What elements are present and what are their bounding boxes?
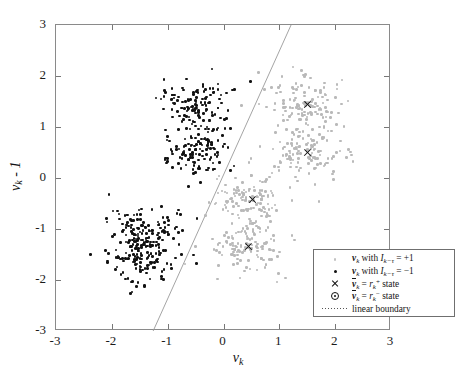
scatter-point — [305, 143, 308, 146]
scatter-point — [181, 229, 184, 232]
scatter-point — [347, 100, 350, 103]
scatter-point — [310, 154, 313, 157]
scatter-point — [326, 139, 329, 142]
scatter-point — [133, 214, 136, 217]
scatter-point — [277, 124, 280, 127]
scatter-point — [241, 196, 244, 199]
scatter-point — [197, 133, 200, 136]
scatter-point — [198, 153, 201, 156]
scatter-point — [218, 161, 221, 164]
scatter-point — [241, 181, 244, 184]
scatter-point — [192, 120, 195, 123]
scatter-point — [308, 86, 311, 89]
scatter-point — [326, 162, 329, 165]
scatter-point — [140, 254, 143, 257]
scatter-point — [308, 104, 311, 107]
scatter-point — [156, 258, 159, 261]
scatter-point — [139, 266, 142, 269]
scatter-point — [164, 249, 167, 252]
scatter-point — [252, 200, 255, 203]
scatter-point — [170, 98, 173, 101]
scatter-point — [130, 224, 133, 227]
scatter-point — [222, 245, 225, 248]
scatter-point — [296, 104, 299, 107]
scatter-point — [172, 102, 175, 105]
scatter-point — [195, 101, 198, 104]
scatter-point — [197, 140, 200, 143]
scatter-point — [195, 96, 198, 99]
scatter-point — [137, 235, 140, 238]
scatter-point — [181, 153, 184, 156]
scatter-point — [158, 253, 161, 256]
y-tick-right — [384, 178, 389, 179]
scatter-point — [140, 244, 143, 247]
scatter-point — [352, 160, 355, 163]
scatter-point — [343, 125, 346, 128]
scatter-point — [249, 220, 252, 223]
scatter-point — [176, 110, 179, 113]
scatter-point — [204, 137, 207, 140]
scatter-point — [177, 162, 180, 165]
scatter-point — [141, 224, 144, 227]
scatter-point — [199, 143, 202, 146]
scatter-point — [238, 250, 241, 253]
scatter-point — [264, 180, 267, 183]
scatter-point — [278, 251, 281, 254]
scatter-point — [161, 239, 164, 242]
scatter-point — [296, 180, 299, 183]
scatter-point — [242, 209, 245, 212]
scatter-point — [248, 243, 251, 246]
scatter-point — [216, 151, 219, 154]
legend-label: linear boundary — [352, 304, 450, 314]
scatter-point — [105, 217, 108, 220]
scatter-point — [225, 231, 228, 234]
scatter-point — [252, 228, 255, 231]
scatter-point — [200, 101, 203, 104]
scatter-point — [314, 167, 317, 170]
scatter-point — [137, 233, 140, 236]
scatter-point — [199, 181, 202, 184]
scatter-point — [133, 237, 136, 240]
scatter-point — [324, 106, 327, 109]
scatter-point — [297, 105, 300, 108]
y-tick — [56, 280, 61, 281]
scatter-point — [260, 246, 263, 249]
scatter-point — [252, 207, 255, 210]
scatter-point — [139, 261, 142, 264]
scatter-point — [206, 144, 209, 147]
scatter-point — [158, 250, 161, 253]
scatter-point — [284, 110, 287, 113]
scatter-point — [334, 96, 337, 99]
scatter-point — [231, 253, 234, 256]
scatter-point — [211, 111, 214, 114]
scatter-point — [132, 243, 135, 246]
scatter-point — [205, 153, 208, 156]
scatter-point — [319, 150, 322, 153]
scatter-point — [249, 238, 252, 241]
scatter-point — [260, 257, 263, 260]
scatter-point — [127, 225, 130, 228]
scatter-point — [264, 266, 267, 269]
scatter-point — [203, 138, 206, 141]
scatter-point — [345, 156, 348, 159]
scatter-point — [124, 214, 127, 217]
scatter-point — [134, 263, 137, 266]
scatter-point — [248, 189, 251, 192]
scatter-point — [181, 107, 184, 110]
scatter-point — [155, 244, 158, 247]
scatter-point — [163, 231, 166, 234]
scatter-point — [190, 106, 193, 109]
scatter-point — [130, 226, 133, 229]
scatter-point — [184, 144, 187, 147]
scatter-point — [149, 278, 152, 281]
scatter-point — [118, 218, 121, 221]
scatter-point — [275, 209, 278, 212]
scatter-point — [108, 193, 111, 196]
scatter-point — [127, 257, 130, 260]
scatter-point — [261, 248, 264, 251]
scatter-point — [127, 241, 130, 244]
scatter-point — [307, 112, 310, 115]
scatter-point — [151, 244, 154, 247]
legend-row: vk with Ik−τ = +1 — [318, 253, 450, 265]
scatter-point — [270, 238, 273, 241]
